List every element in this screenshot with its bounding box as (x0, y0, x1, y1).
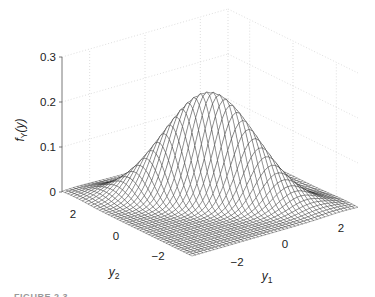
figure-caption: FIGURE 2.3 (14, 292, 68, 297)
z-tick-0: 0 (50, 186, 56, 198)
surface-mesh (62, 92, 358, 256)
y1-tick-2: 2 (338, 222, 344, 234)
z-tick-0.3: 0.3 (40, 51, 56, 63)
axis-lines (59, 57, 62, 192)
y2-tick-0: 0 (113, 230, 119, 242)
y2-axis-label: y2 (108, 265, 120, 281)
y2-tick-2: 2 (70, 208, 76, 220)
z-axis-label: fY(y) (13, 118, 29, 141)
y1-tick-0: 0 (282, 238, 288, 250)
z-tick-0.2: 0.2 (40, 96, 56, 108)
z-tick-0.1: 0.1 (40, 141, 56, 153)
surface-plot: 0.3 0.2 0.1 0 fY(y) 2 0 −2 y2 −2 0 2 y1 (0, 0, 375, 297)
y1-axis-label: y1 (261, 269, 273, 285)
y2-tick-neg2: −2 (151, 250, 164, 262)
y1-tick-neg2: −2 (230, 256, 243, 268)
